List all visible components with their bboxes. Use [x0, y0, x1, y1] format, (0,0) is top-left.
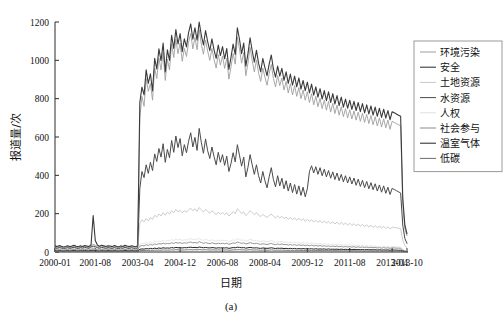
y-tick-label: 1200 [30, 18, 49, 28]
x-tick-label: 2003-04 [122, 258, 154, 268]
y-tick-label: 600 [35, 133, 50, 143]
legend-label-1[interactable]: 安全 [440, 61, 460, 73]
x-tick-label: 2006-08 [207, 258, 239, 268]
chart-figure: 0200400600800100012002000-012001-082003-… [0, 0, 504, 322]
x-tick-label: 2008-04 [249, 258, 281, 268]
legend-label-3[interactable]: 水资源 [440, 92, 470, 104]
x-tick-label: 2013-10 [391, 258, 423, 268]
y-tick-label: 800 [35, 94, 50, 104]
legend-label-0[interactable]: 环境污染 [440, 46, 480, 58]
x-tick-label: 2011-08 [334, 258, 366, 268]
legend-label-6[interactable]: 温室气体 [440, 137, 480, 149]
legend-label-2[interactable]: 土地资源 [440, 76, 480, 88]
legend-label-4[interactable]: 人权 [440, 107, 460, 119]
y-tick-label: 400 [35, 171, 50, 181]
y-axis-title: 报道量/次 [9, 113, 23, 161]
x-tick-label: 2004-12 [164, 258, 196, 268]
legend-label-7[interactable]: 低碳 [440, 152, 460, 164]
x-axis-title: 日期 [220, 277, 242, 290]
legend-box [414, 41, 502, 172]
y-tick-label: 1000 [30, 56, 49, 66]
y-tick-label: 0 [44, 248, 49, 258]
legend-label-5[interactable]: 社会参与 [440, 122, 480, 134]
x-tick-label: 2000-01 [39, 258, 71, 268]
figure-caption: (a) [225, 300, 238, 313]
x-tick-label: 2009-12 [292, 258, 324, 268]
chart-legend[interactable]: 环境污染安全土地资源水资源人权社会参与温室气体低碳 [414, 41, 502, 172]
chart-svg: 0200400600800100012002000-012001-082003-… [0, 0, 504, 322]
y-tick-label: 200 [35, 209, 50, 219]
x-tick-label: 2001-08 [79, 258, 111, 268]
